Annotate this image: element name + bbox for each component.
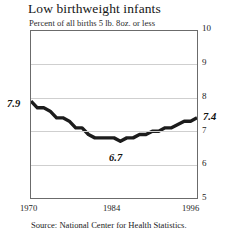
y-axis-tick-5: 5 — [202, 192, 207, 202]
x-axis-tick-1984: 1984 — [103, 203, 120, 213]
axis-right-spine — [197, 30, 198, 199]
source-note: Source: National Center for Health Stati… — [31, 220, 187, 230]
y-axis-tick-9: 9 — [202, 57, 207, 67]
plot-area — [30, 30, 198, 199]
chart-title: Low birthweight infants — [28, 1, 161, 17]
chart-subtitle: Percent of all births 5 lb. 8oz. or less — [29, 18, 155, 28]
y-axis-tick-10: 10 — [202, 23, 211, 33]
figure-low-birthweight-infants: Low birthweight infants Percent of all b… — [0, 0, 225, 242]
y-axis-tick-7: 7 — [202, 125, 207, 135]
callout-start-value: 7.9 — [7, 98, 20, 109]
callout-end-value: 7.4 — [203, 111, 216, 122]
data-line-series — [30, 30, 198, 199]
x-axis-tick-1996: 1996 — [182, 203, 199, 213]
axis-left-spine — [30, 30, 31, 199]
y-axis-tick-6: 6 — [202, 158, 207, 168]
gridline-8 — [31, 98, 197, 99]
callout-minimum-value: 6.7 — [109, 152, 122, 163]
gridline-9 — [31, 64, 197, 65]
gridline-6 — [31, 165, 197, 166]
axis-top-spine — [30, 30, 198, 31]
gridline-7 — [31, 131, 197, 132]
x-axis-tick-1970: 1970 — [20, 203, 37, 213]
axis-bottom-spine — [30, 198, 198, 199]
y-axis-tick-8: 8 — [202, 91, 207, 101]
